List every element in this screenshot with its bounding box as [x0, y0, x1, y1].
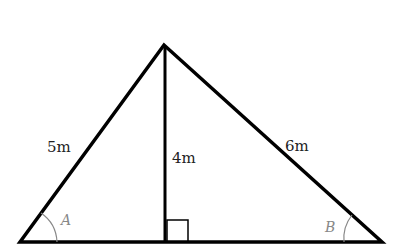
angle-a-arc — [41, 213, 57, 242]
angle-b-label: B — [324, 219, 335, 235]
triangle — [20, 45, 382, 242]
left-side-label: 5m — [47, 138, 71, 156]
right-side-label: 6m — [285, 137, 309, 155]
triangle-diagram: 5m 4m 6m A B — [0, 0, 401, 246]
angle-b-arc — [344, 215, 352, 242]
angle-a-label: A — [59, 212, 71, 228]
right-angle-marker — [167, 220, 188, 242]
altitude-label: 4m — [172, 149, 196, 167]
